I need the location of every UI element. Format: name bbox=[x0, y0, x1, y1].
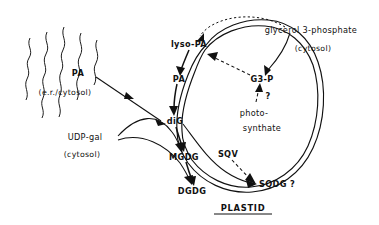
label-udp-gal: UDP-gal bbox=[68, 132, 103, 142]
arrow-pa-to-dig bbox=[169, 84, 178, 116]
label-mgdg: MGDG bbox=[169, 152, 199, 162]
label-udp-gal-compartment: (cytosol) bbox=[64, 150, 101, 159]
label-plastid-pa: PA bbox=[173, 74, 186, 84]
er-wavy-lines bbox=[26, 27, 98, 118]
label-er-compartment: (e.r./cytosol) bbox=[39, 88, 92, 97]
label-photosynthate-line2: synthate bbox=[243, 123, 281, 133]
arrow-lysopa-to-pa bbox=[176, 50, 189, 76]
label-er-pa: PA bbox=[72, 68, 85, 78]
label-dig: diG bbox=[167, 116, 183, 126]
label-glycerol-3-phosphate: glycerol 3-phosphate bbox=[265, 25, 357, 35]
label-lyso-pa: lyso-PA bbox=[171, 39, 207, 49]
label-glycerol-3-phosphate-compartment: (cytosol) bbox=[295, 44, 332, 53]
label-photosynthate-line1: photo- bbox=[240, 108, 269, 118]
arrow-g3p-to-lysopa bbox=[207, 52, 250, 75]
arrow-glycerol3p-to-g3p bbox=[264, 33, 290, 76]
pathway-figure: PA (e.r./cytosol) UDP-gal (cytosol) lyso… bbox=[0, 0, 379, 225]
label-plastid: PLASTID bbox=[221, 203, 266, 213]
label-question-mark: ? bbox=[265, 91, 270, 101]
arrow-sqv-to-sqdg bbox=[232, 160, 256, 184]
label-sqv: SQV bbox=[218, 149, 239, 159]
arrow-er-pa-to-dig bbox=[96, 77, 166, 126]
label-dgdg: DGDG bbox=[178, 186, 206, 196]
arrow-photosynthate-to-g3p bbox=[255, 83, 263, 102]
label-sqdg: SQDG ? bbox=[259, 179, 295, 189]
label-g3p: G3-P bbox=[250, 74, 273, 84]
